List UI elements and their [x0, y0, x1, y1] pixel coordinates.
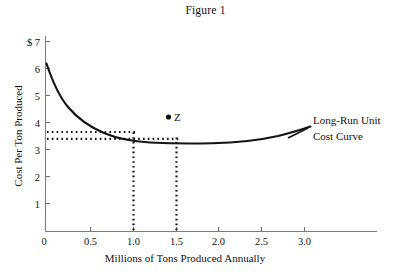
curve-label-group: Long-Run Unit Cost Curve — [288, 114, 381, 142]
curve-label-line-1: Long-Run Unit — [313, 114, 381, 126]
y-tick-label-2: 2 — [35, 172, 40, 183]
x-tick-label-0-5: 0.5 — [84, 236, 97, 247]
x-tick-label-1-5: 1.5 — [170, 236, 183, 247]
y-tick-label-5: 5 — [35, 91, 40, 102]
x-tick-label-0: 0 — [41, 236, 46, 247]
guide-lines-group — [47, 131, 180, 230]
y-tick-label-4: 4 — [35, 118, 41, 129]
x-tick-label-2-5: 2.5 — [255, 236, 268, 247]
point-z-label: Z — [174, 111, 181, 123]
x-tick-label-1-0: 1.0 — [127, 236, 140, 247]
point-z-marker — [166, 114, 171, 119]
y-tick-label-6: 6 — [35, 64, 40, 75]
point-z-group: Z — [166, 111, 181, 123]
y-axis-title: Cost Per Ton Produced — [12, 85, 24, 187]
curve-label-line-2: Cost Curve — [313, 130, 363, 142]
x-tick-label-3-0: 3.0 — [298, 236, 311, 247]
x-axis-title: Millions of Tons Produced Annually — [105, 252, 266, 264]
y-axis-tick-labels: $ 7 6 5 4 3 2 1 — [27, 37, 41, 210]
x-axis-ticks — [91, 227, 305, 232]
y-tick-label-7: $ 7 — [27, 37, 40, 48]
y-tick-label-3: 3 — [35, 145, 40, 156]
x-axis-tick-labels: 0 0.5 1.0 1.5 2.0 2.5 3.0 — [41, 236, 311, 247]
y-tick-label-1: 1 — [35, 199, 40, 210]
chart-plot-area: $ 7 6 5 4 3 2 1 0 0.5 1.0 1.5 2.0 2.5 3.… — [0, 0, 411, 272]
x-tick-label-2-0: 2.0 — [212, 236, 225, 247]
figure-container: Figure 1 $ 7 6 5 4 3 2 1 — [0, 0, 411, 272]
